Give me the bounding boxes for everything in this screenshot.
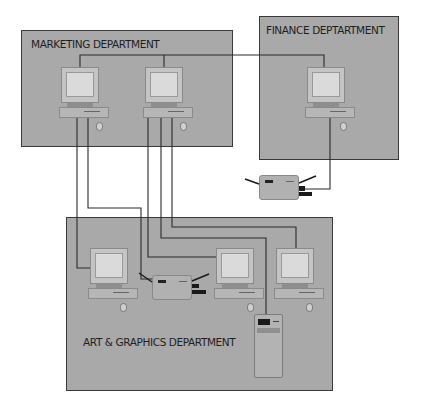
monitor-icon xyxy=(276,248,314,284)
mouse-icon xyxy=(306,303,313,312)
mouse-icon xyxy=(247,303,254,312)
marketing-department-box: MARKETING DEPARTMENT xyxy=(21,30,233,147)
marketing-computer-1[interactable] xyxy=(59,67,111,132)
drive-bay-icon xyxy=(258,319,270,325)
keyboard-base-icon xyxy=(274,288,324,299)
marketing-department-label: MARKETING DEPARTMENT xyxy=(31,38,159,50)
art-modem[interactable] xyxy=(152,275,192,300)
mouse-icon xyxy=(96,122,103,131)
monitor-icon xyxy=(216,248,254,284)
plug-icon xyxy=(192,284,199,288)
keyboard-base-icon xyxy=(143,107,193,118)
plug-icon xyxy=(299,186,305,191)
keyboard-base-icon xyxy=(305,107,355,118)
monitor-icon xyxy=(145,67,183,103)
art-computer-3[interactable] xyxy=(274,248,326,313)
keyboard-base-icon xyxy=(88,288,138,299)
monitor-icon xyxy=(307,67,345,103)
finance-modem[interactable] xyxy=(259,175,299,200)
mouse-icon xyxy=(340,122,347,131)
art-computer-1[interactable] xyxy=(88,248,140,313)
monitor-icon xyxy=(61,67,99,103)
finance-computer-1[interactable] xyxy=(305,67,357,132)
keyboard-base-icon xyxy=(214,288,264,299)
plug-icon xyxy=(299,192,312,196)
keyboard-base-icon xyxy=(59,107,109,118)
marketing-computer-2[interactable] xyxy=(143,67,195,132)
art-computer-2[interactable] xyxy=(214,248,266,313)
art-tower-server[interactable] xyxy=(254,314,283,378)
art-graphics-department-label: ART & GRAPHICS DEPARTMENT xyxy=(83,336,235,348)
mouse-icon xyxy=(120,303,127,312)
plug-icon xyxy=(192,290,206,294)
finance-department-label: FINANCE DEPTARTMENT xyxy=(266,24,384,36)
mouse-icon xyxy=(180,122,187,131)
monitor-icon xyxy=(90,248,128,284)
